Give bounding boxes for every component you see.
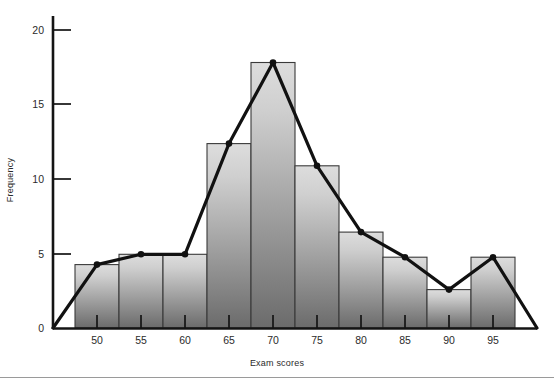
x-tick-label-85: 85 [390,334,420,346]
bar-65 [207,144,251,328]
x-axis-title: Exam scores [0,358,554,368]
x-tick-label-75: 75 [302,334,332,346]
x-tick-label-90: 90 [434,334,464,346]
x-tick-label-95: 95 [478,334,508,346]
bar-80 [339,232,383,328]
histogram-figure: 20 15 10 5 0 50 55 60 65 70 75 80 85 90 … [0,0,554,390]
chart-canvas [0,0,554,390]
x-tick-label-65: 65 [214,334,244,346]
y-tick-label-15: 15 [20,98,44,110]
y-axis-title: Frequency [5,145,15,215]
y-tick-label-20: 20 [20,24,44,36]
y-axis-ticks [53,30,71,254]
x-tick-label-50: 50 [82,334,112,346]
x-tick-label-60: 60 [170,334,200,346]
y-tick-label-5: 5 [20,248,44,260]
y-tick-label-10: 10 [20,173,44,185]
y-tick-label-0: 0 [20,322,44,334]
x-tick-label-70: 70 [258,334,288,346]
figure-bottom-rule [0,377,554,378]
x-tick-label-55: 55 [126,334,156,346]
x-tick-label-80: 80 [346,334,376,346]
